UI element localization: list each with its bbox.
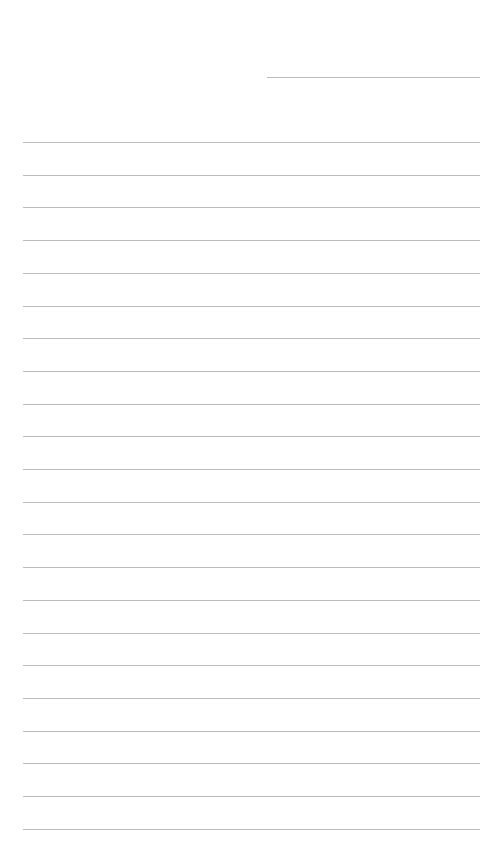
ruled-line [23, 338, 480, 339]
ruled-line [23, 207, 480, 208]
date-line [267, 77, 480, 78]
ruled-line [23, 142, 480, 143]
ruled-line [23, 731, 480, 732]
ruled-line [23, 240, 480, 241]
ruled-line [23, 502, 480, 503]
ruled-line [23, 306, 480, 307]
ruled-line [23, 371, 480, 372]
ruled-line [23, 534, 480, 535]
ruled-line [23, 469, 480, 470]
ruled-line [23, 763, 480, 764]
ruled-line [23, 175, 480, 176]
ruled-line [23, 567, 480, 568]
ruled-line [23, 273, 480, 274]
ruled-line [23, 404, 480, 405]
ruled-line [23, 829, 480, 830]
ruled-line [23, 665, 480, 666]
lined-paper-page [0, 0, 502, 864]
ruled-line [23, 796, 480, 797]
ruled-line [23, 436, 480, 437]
ruled-line [23, 698, 480, 699]
ruled-line [23, 633, 480, 634]
ruled-line [23, 600, 480, 601]
